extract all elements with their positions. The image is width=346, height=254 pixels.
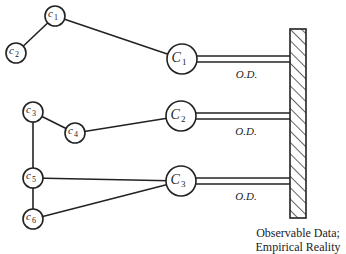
node-c4: c4	[65, 123, 85, 143]
od-link-C1: O.D.	[197, 56, 290, 80]
od-label: O.D.	[235, 125, 256, 137]
node-C3: C3	[166, 166, 196, 196]
caption-line-2: Empirical Reality	[256, 240, 341, 254]
node-c5: c5	[23, 168, 43, 188]
od-link-C2: O.D.	[196, 113, 290, 137]
observable-data-wall	[290, 29, 306, 218]
node-c1: c1	[45, 6, 65, 26]
node-c6: c6	[23, 209, 43, 229]
caption-line-1: Observable Data;	[256, 226, 340, 240]
od-label: O.D.	[236, 68, 257, 80]
node-C2: C2	[166, 101, 196, 131]
node-C1: C1	[167, 44, 197, 74]
edge-c5-C3	[33, 178, 181, 181]
node-c3: c3	[23, 102, 43, 122]
od-label: O.D.	[235, 190, 256, 202]
edge-c1-C1	[55, 16, 182, 59]
od-link-C3: O.D.	[196, 178, 290, 202]
edge-c6-C3	[33, 181, 181, 219]
network-diagram: O.D.O.D.O.D. C1C2C3c1c2c3c4c5c6 Observab…	[0, 0, 346, 254]
node-c2: c2	[6, 43, 26, 63]
edge-c4-C2	[75, 116, 181, 133]
